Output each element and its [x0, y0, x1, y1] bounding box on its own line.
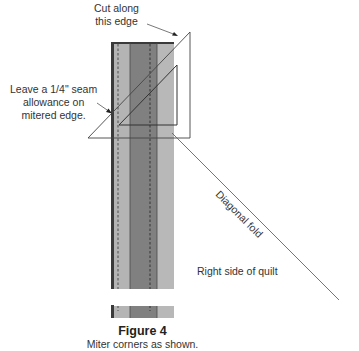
figure-title: Figure 4: [0, 324, 322, 338]
seam-allowance-label: Leave a 1/4" seam allowance on mitered e…: [10, 83, 97, 122]
cut-edge-label-line2: this edge: [94, 15, 139, 28]
seam-arrow-icon: [97, 103, 112, 114]
figure-caption: Miter corners as shown.: [0, 338, 322, 350]
cut-edge-label: Cut along this edge: [94, 2, 139, 28]
figure-4-diagram: Cut along this edge Leave a 1/4" seam al…: [0, 0, 359, 351]
border-strip: [111, 42, 174, 289]
border-strip-end-piece: [111, 305, 174, 318]
right-side-of-quilt-label: Right side of quilt: [197, 265, 278, 278]
seam-label-line1: Leave a 1/4" seam: [10, 83, 97, 96]
dark-edge-left: [111, 42, 114, 289]
seam-label-line3: mitered edge.: [10, 109, 97, 122]
cut-edge-arrow-icon: [147, 24, 178, 36]
light-strip-left: [113, 43, 130, 289]
dark-edge-top: [111, 42, 174, 44]
miter-diagram-svg: [0, 0, 359, 351]
cut-edge-label-line1: Cut along: [94, 2, 139, 15]
light-strip-right: [157, 43, 174, 289]
seam-label-line2: allowance on: [10, 96, 97, 109]
